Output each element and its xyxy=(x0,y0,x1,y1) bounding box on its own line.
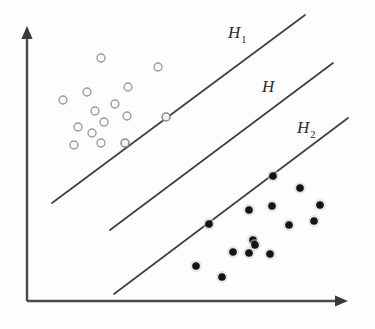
data-point xyxy=(70,141,78,149)
data-point xyxy=(124,83,132,91)
data-point xyxy=(123,112,131,120)
data-point xyxy=(192,262,199,269)
data-point xyxy=(310,217,317,224)
hyperplane-line-h1 xyxy=(52,15,305,203)
y-axis-arrow-icon xyxy=(21,26,32,39)
data-point xyxy=(97,139,105,147)
data-point xyxy=(111,100,119,108)
data-point xyxy=(88,129,96,137)
hyperplane-line-h xyxy=(110,63,333,230)
support-vector-point xyxy=(121,139,129,147)
x-axis-arrow-icon xyxy=(335,295,348,306)
support-vector-point xyxy=(205,220,212,227)
data-point xyxy=(245,249,252,256)
data-point xyxy=(100,118,108,126)
hyperplane-lines-group xyxy=(52,15,348,294)
data-point xyxy=(97,54,105,62)
data-point xyxy=(268,202,275,209)
data-point xyxy=(229,248,236,255)
hyperplane-label-h2: H2 xyxy=(296,118,316,140)
data-point xyxy=(59,96,67,104)
data-point xyxy=(91,107,99,115)
data-point xyxy=(74,123,82,131)
hyperplane-label-subscript: 2 xyxy=(310,129,315,140)
data-point xyxy=(285,221,292,228)
hyperplane-line-h2 xyxy=(114,118,348,294)
data-point xyxy=(316,201,323,208)
data-point xyxy=(154,63,162,71)
data-point xyxy=(218,273,225,280)
support-vector-point xyxy=(269,172,276,179)
plot-canvas: H1HH2 xyxy=(0,0,375,329)
svm-hyperplane-figure: H1HH2 xyxy=(0,0,375,329)
axes-group xyxy=(21,26,348,307)
hyperplane-label-h: H xyxy=(261,77,276,96)
data-point xyxy=(266,250,273,257)
data-point xyxy=(251,241,258,248)
data-point xyxy=(296,184,303,191)
hyperplane-label-subscript: 1 xyxy=(241,34,246,45)
data-point xyxy=(245,206,252,213)
support-vector-point xyxy=(162,113,170,121)
data-point xyxy=(83,88,91,96)
hyperplane-label-h1: H1 xyxy=(227,23,247,45)
